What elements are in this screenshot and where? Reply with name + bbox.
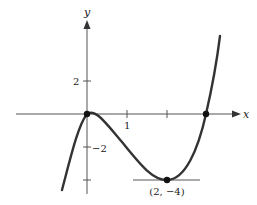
zero-point-3 — [203, 111, 209, 117]
minimum-point-label: (2, −4) — [149, 186, 184, 197]
x-axis-label: x — [243, 108, 250, 121]
origin-point — [84, 111, 90, 117]
y-axis-arrow-icon — [84, 20, 91, 29]
minimum-point — [164, 177, 170, 183]
x-tick-label-1: 1 — [124, 120, 130, 131]
x-axis-arrow-icon — [232, 111, 241, 118]
y-tick-label-2: 2 — [73, 76, 79, 87]
function-graph: x y 1 2 −2 (2, −4) — [0, 0, 257, 205]
y-tick-label-neg2: −2 — [92, 143, 107, 154]
y-axis-label: y — [83, 6, 91, 19]
